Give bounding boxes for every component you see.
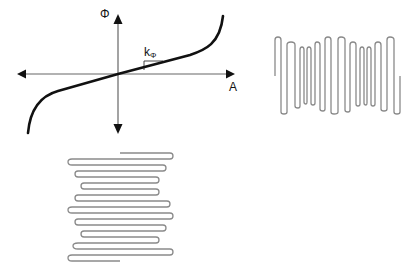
slope-label: kΦ — [144, 45, 156, 60]
x-axis-right-arrow-icon — [226, 70, 235, 79]
y-axis-down-arrow-icon — [114, 124, 123, 134]
x-axis-left-arrow-icon — [17, 70, 26, 79]
horizontal-serpentine — [68, 153, 173, 261]
diagram-canvas — [0, 0, 417, 263]
y-axis-label: Φ — [100, 7, 110, 21]
x-axis-label: A — [229, 80, 237, 94]
vertical-serpentine — [275, 37, 400, 114]
graph — [17, 14, 235, 134]
y-axis-up-arrow-icon — [114, 14, 123, 24]
slope-label-subscript: Φ — [150, 51, 156, 60]
